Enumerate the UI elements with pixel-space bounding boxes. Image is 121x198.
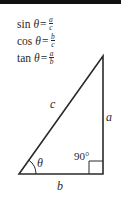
adjacent-side-label: b <box>57 179 63 193</box>
angle-arc <box>29 160 36 174</box>
opposite-side-label: a <box>106 110 112 124</box>
right-angle-marker <box>89 161 103 174</box>
theta-angle-label: θ <box>37 156 43 170</box>
triangle-outline <box>19 56 103 174</box>
hypotenuse-label: c <box>50 97 56 111</box>
right-triangle-diagram: c a b θ 90° <box>0 0 121 198</box>
right-angle-label: 90° <box>74 150 89 162</box>
